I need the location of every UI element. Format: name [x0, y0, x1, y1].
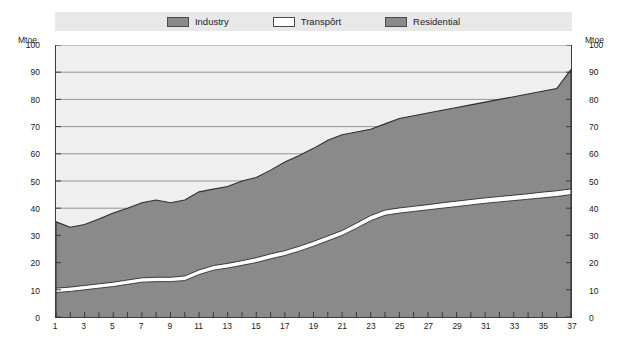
legend-label-industry: Industry	[195, 17, 229, 27]
x-axis-tick-label: 35	[539, 322, 548, 331]
y-axis-tick-label-right: 100	[589, 41, 603, 50]
y-axis-tick-label-right: 90	[589, 68, 598, 77]
y-axis-tick-label-left: 10	[31, 286, 40, 295]
y-axis-tick-label-left: 100	[26, 41, 40, 50]
stacked-area-chart	[56, 45, 571, 317]
y-axis-tick-label-right: 20	[589, 259, 598, 268]
y-axis-tick-label-right: 30	[589, 232, 598, 241]
x-axis-tick-label: 31	[481, 322, 490, 331]
y-axis-tick-label-left: 80	[31, 95, 40, 104]
legend-item-transport: Transpôrt	[273, 17, 341, 27]
x-axis-tick-label: 27	[424, 322, 433, 331]
x-axis-tick-label: 29	[452, 322, 461, 331]
y-axis-tick-label-right: 50	[589, 177, 598, 186]
y-axis-left: 0102030405060708090100	[0, 0, 47, 345]
x-axis-tick-label: 1	[53, 322, 58, 331]
legend-label-transport: Transpôrt	[301, 17, 341, 27]
legend-item-industry: Industry	[167, 17, 229, 27]
x-axis-tick-label: 3	[81, 322, 86, 331]
legend-item-residential: Residential	[385, 17, 460, 27]
y-axis-tick-label-left: 30	[31, 232, 40, 241]
y-axis-tick-label-right: 40	[589, 205, 598, 214]
x-axis: 135791113151719212325272931333537	[55, 322, 572, 338]
x-axis-tick-label: 33	[510, 322, 519, 331]
x-axis-tick-label: 7	[139, 322, 144, 331]
x-axis-tick-label: 13	[223, 322, 232, 331]
y-axis-tick-label-right: 60	[589, 150, 598, 159]
y-axis-right: 0102030405060708090100	[578, 0, 631, 345]
x-axis-tick-label: 19	[309, 322, 318, 331]
x-axis-tick-label: 21	[337, 322, 346, 331]
chart-plot-area	[55, 45, 572, 318]
x-axis-tick-label: 9	[168, 322, 173, 331]
y-axis-tick-label-left: 90	[31, 68, 40, 77]
x-axis-tick-label: 37	[567, 322, 576, 331]
y-axis-tick-label-right: 10	[589, 286, 598, 295]
y-axis-tick-label-left: 50	[31, 177, 40, 186]
x-axis-tick-label: 17	[280, 322, 289, 331]
x-axis-tick-label: 11	[194, 322, 203, 331]
y-axis-tick-label-left: 40	[31, 205, 40, 214]
x-axis-tick-label: 5	[110, 322, 115, 331]
y-axis-tick-label-left: 70	[31, 123, 40, 132]
y-axis-tick-label-right: 70	[589, 123, 598, 132]
legend-label-residential: Residential	[413, 17, 460, 27]
chart-legend: Industry Transpôrt Residential	[55, 12, 572, 31]
y-axis-tick-label-right: 80	[589, 95, 598, 104]
y-axis-tick-label-left: 20	[31, 259, 40, 268]
legend-swatch-residential	[385, 17, 407, 27]
x-axis-tick-label: 23	[366, 322, 375, 331]
legend-swatch-industry	[167, 17, 189, 27]
y-axis-tick-label-left: 0	[35, 314, 40, 323]
y-axis-tick-label-left: 60	[31, 150, 40, 159]
y-axis-tick-label-right: 0	[589, 314, 594, 323]
legend-swatch-transport	[273, 17, 295, 27]
x-axis-tick-label: 25	[395, 322, 404, 331]
x-axis-tick-label: 15	[251, 322, 260, 331]
